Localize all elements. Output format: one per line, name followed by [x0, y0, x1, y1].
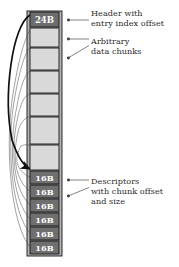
descriptor-size-label: 16B: [35, 243, 53, 253]
figure-canvas: 24B 16B 16B 16B: [0, 0, 179, 267]
descriptor-block: 16B: [30, 199, 59, 212]
data-chunk: [30, 71, 59, 93]
header-annotation-line: entry index offset: [91, 18, 164, 28]
chunks-note-leader-upper: [67, 38, 89, 41]
chunks-annotation: Arbitrary data chunks: [91, 36, 141, 56]
data-chunk: [30, 145, 59, 170]
data-chunks: [30, 28, 59, 170]
descriptors-note-leader-lower: [67, 188, 89, 198]
header-note-leader: [67, 19, 89, 22]
header-size-label: 24B: [35, 15, 54, 25]
descriptors-annotation: Descriptors with chunk offset and size: [91, 176, 163, 207]
memory-layout-figure: 24B 16B 16B 16B: [0, 0, 179, 267]
annotation-leaders: [67, 19, 89, 198]
descriptor-size-label: 16B: [35, 229, 53, 239]
header-annotation-line: Header with: [91, 8, 164, 18]
descriptors-annotation-line: Descriptors: [91, 176, 163, 186]
header-block: 24B: [30, 12, 59, 27]
chunks-note-leader-lower: [67, 46, 89, 60]
data-chunk: [30, 94, 59, 116]
descriptor-block: 16B: [30, 227, 59, 240]
descriptor-size-label: 16B: [35, 215, 53, 225]
chunks-annotation-line: Arbitrary: [91, 36, 141, 46]
header-annotation: Header with entry index offset: [91, 8, 164, 28]
descriptors-note-leader-upper: [67, 179, 89, 182]
data-chunk: [30, 117, 59, 144]
descriptor-block: 16B: [30, 171, 59, 184]
descriptor-block: 16B: [30, 241, 59, 254]
descriptors-annotation-line: with chunk offset: [91, 186, 163, 196]
descriptor-size-label: 16B: [35, 173, 53, 183]
data-chunk: [30, 48, 59, 70]
descriptor-block: 16B: [30, 213, 59, 226]
descriptor-size-label: 16B: [35, 201, 53, 211]
chunks-annotation-line: data chunks: [91, 46, 141, 56]
descriptor-size-label: 16B: [35, 187, 53, 197]
descriptors-annotation-line: and size: [91, 196, 163, 206]
data-chunk: [30, 28, 59, 47]
descriptor-block: 16B: [30, 185, 59, 198]
